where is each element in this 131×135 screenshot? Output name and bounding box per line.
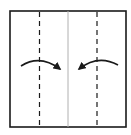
origami-fold-diagram [0,0,131,135]
